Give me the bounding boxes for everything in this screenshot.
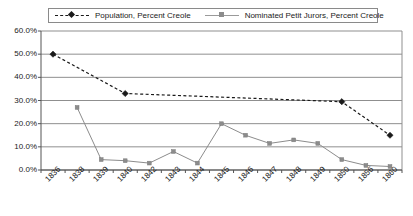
data-point-1840 (122, 91, 128, 97)
x-axis-tick-labels: 1836183818391840184218431844184518461847… (0, 172, 413, 216)
y-axis-label-10-0: 10.0% (14, 143, 37, 151)
data-point-1847 (268, 142, 272, 146)
data-point-1850 (339, 99, 345, 105)
data-point-1846 (244, 133, 248, 137)
data-point-1845 (220, 122, 224, 126)
data-point-1849 (316, 142, 320, 146)
data-point-1839 (99, 158, 103, 162)
y-axis-label-60-0: 60.0% (14, 27, 37, 35)
y-axis-label-20-0: 20.0% (14, 120, 37, 128)
plot-area: 0.0%10.0%20.0%30.0%40.0%50.0%60.0% 18361… (0, 0, 413, 216)
y-axis-label-40-0: 40.0% (14, 73, 37, 81)
data-point-1836 (50, 51, 56, 57)
data-point-1838 (75, 106, 79, 110)
data-point-1850 (340, 158, 344, 162)
gridlines (41, 31, 402, 170)
data-point-1860 (387, 132, 393, 138)
series-nominated-petit-jurors (75, 106, 392, 169)
data-point-1840 (123, 159, 127, 163)
chart-container: Population, Percent Creole Nominated Pet… (0, 0, 413, 216)
y-axis-label-50-0: 50.0% (14, 50, 37, 58)
data-point-1848 (292, 138, 296, 142)
data-point-1843 (172, 150, 176, 154)
y-axis-tick-labels: 0.0%10.0%20.0%30.0%40.0%50.0%60.0% (0, 27, 40, 169)
y-axis-label-30-0: 30.0% (14, 97, 37, 105)
